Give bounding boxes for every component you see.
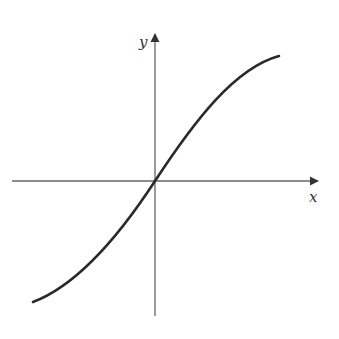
function-graph: x y: [0, 0, 339, 339]
x-axis-label: x: [309, 188, 318, 206]
y-axis-label: y: [138, 33, 148, 51]
function-curve: [33, 56, 279, 302]
